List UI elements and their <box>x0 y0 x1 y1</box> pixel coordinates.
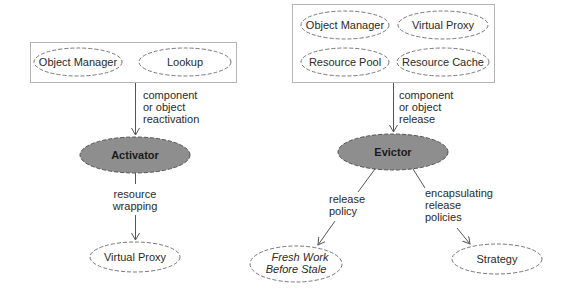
node-fresh-work-before-stale: Fresh Work Before Stale <box>250 246 342 282</box>
node-evictor: Evictor <box>338 134 448 170</box>
edge-label: encapsulating <box>425 187 493 199</box>
edge-label: resource <box>114 188 157 200</box>
edge-label: component <box>399 89 453 101</box>
node-label: Evictor <box>374 146 412 158</box>
edge-label: or object <box>143 101 185 113</box>
node-label: Fresh Work <box>272 251 329 263</box>
edge-label: or object <box>399 101 441 113</box>
node-resource-pool: Resource Pool <box>301 48 389 76</box>
node-label: Resource Pool <box>309 56 381 68</box>
node-lookup: Lookup <box>139 48 231 76</box>
edge-label: policies <box>425 211 462 223</box>
node-object-manager-left: Object Manager <box>34 48 122 76</box>
node-resource-cache: Resource Cache <box>397 48 489 76</box>
node-label: Lookup <box>167 56 203 68</box>
edge-label: wrapping <box>112 200 158 212</box>
edge-encapsulating-top <box>413 169 425 188</box>
edge-label: policy <box>329 205 358 217</box>
edge-release-policy-top <box>358 169 375 192</box>
node-label: Strategy <box>477 253 518 265</box>
node-label: Virtual Proxy <box>104 251 167 263</box>
node-label: Virtual Proxy <box>412 19 475 31</box>
node-label: Object Manager <box>306 19 385 31</box>
edge-label: component <box>143 89 197 101</box>
node-label: Before Stale <box>266 263 327 275</box>
node-virtual-proxy-left: Virtual Proxy <box>90 242 180 272</box>
node-activator: Activator <box>80 137 190 173</box>
edge-label: release <box>425 199 461 211</box>
node-label: Resource Cache <box>402 56 484 68</box>
edge-label: release <box>399 113 435 125</box>
node-virtual-proxy-right: Virtual Proxy <box>398 11 488 39</box>
edge-release-policy <box>318 221 335 245</box>
node-label: Activator <box>111 149 159 161</box>
edge-label: reactivation <box>143 113 199 125</box>
node-object-manager-right: Object Manager <box>301 11 389 39</box>
right-diagram: Object Manager Virtual Proxy Resource Po… <box>250 5 542 283</box>
edge-encapsulating <box>457 228 470 244</box>
pattern-diagram: Object Manager Lookup component or objec… <box>0 0 570 294</box>
edge-label: release <box>329 193 365 205</box>
node-strategy: Strategy <box>452 244 542 274</box>
node-label: Object Manager <box>39 56 118 68</box>
left-diagram: Object Manager Lookup component or objec… <box>31 43 237 273</box>
